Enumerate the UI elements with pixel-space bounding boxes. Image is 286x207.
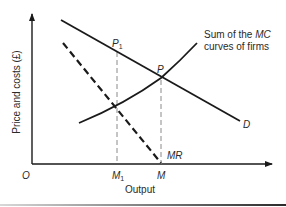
x-tick-m1: M1 xyxy=(112,170,124,182)
demand-label: D xyxy=(243,119,250,130)
mc-label-line1: Sum of the MC xyxy=(204,29,271,40)
marginal-cost-curve xyxy=(79,43,197,123)
origin-label: O xyxy=(22,170,30,181)
x-tick-m: M xyxy=(157,170,166,181)
monopoly-diagram: P1 P D MR Sum of the MC curves of firms … xyxy=(0,0,286,207)
mc-label-line2: curves of firms xyxy=(204,41,269,52)
y-axis-label: Price and costs (£) xyxy=(11,50,22,133)
bottom-rule xyxy=(0,204,286,206)
mr-label: MR xyxy=(167,150,183,161)
marginal-revenue-curve xyxy=(63,43,161,163)
point-p-label: P xyxy=(157,64,164,75)
point-p1-label: P1 xyxy=(112,38,123,50)
x-axis-label: Output xyxy=(125,184,155,195)
